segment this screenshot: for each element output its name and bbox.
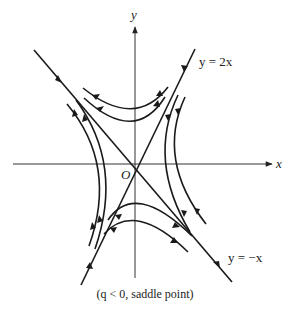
y-axis-label: y — [129, 7, 137, 22]
x-axis-label: x — [275, 156, 282, 171]
line-y-neg-x — [34, 50, 232, 282]
axes — [13, 27, 272, 278]
arrow-icon — [110, 227, 117, 233]
label-y-2x: y = 2x — [199, 54, 233, 69]
arrow-icon — [115, 214, 122, 220]
label-y-neg-x: y = −x — [228, 250, 263, 265]
arrow-icon — [213, 261, 220, 268]
separatrices — [34, 49, 232, 285]
arrow-icon — [181, 65, 188, 72]
caption: (q < 0, saddle point) — [96, 287, 193, 301]
trajectory-right-outer — [174, 97, 206, 224]
trajectory-left-outer — [67, 104, 100, 246]
saddle-point-diagram: y x O y = 2x y = −x (q < 0, saddle point… — [0, 0, 290, 309]
arrow-icon — [96, 106, 104, 112]
origin-label: O — [121, 167, 131, 182]
